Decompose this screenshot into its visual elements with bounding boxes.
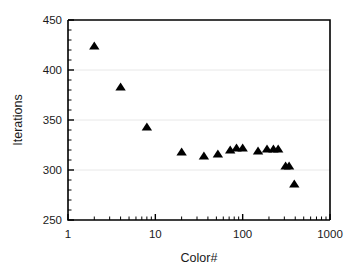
x-tick-label-1: 1 xyxy=(65,228,71,240)
scatter-plot: 250300350400450 1101001000 Color# Iterat… xyxy=(0,0,359,277)
chart-background xyxy=(0,0,359,277)
chart-container: 250300350400450 1101001000 Color# Iterat… xyxy=(0,0,359,277)
y-tick-label-450: 450 xyxy=(43,14,62,26)
x-tick-label-100: 100 xyxy=(233,228,252,240)
x-axis-title: Color# xyxy=(181,251,218,265)
y-tick-label-350: 350 xyxy=(43,114,62,126)
y-tick-label-300: 300 xyxy=(43,164,62,176)
x-tick-label-1000: 1000 xyxy=(317,228,343,240)
y-axis-title: Iterations xyxy=(11,94,25,145)
x-tick-label-10: 10 xyxy=(149,228,162,240)
y-tick-label-250: 250 xyxy=(43,214,62,226)
y-tick-label-400: 400 xyxy=(43,64,62,76)
